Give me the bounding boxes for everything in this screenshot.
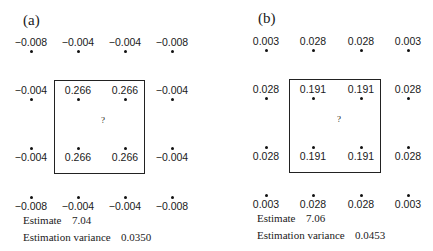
weight-label: 0.003 bbox=[378, 198, 433, 210]
point-dot-icon bbox=[312, 49, 315, 52]
point-dot-icon bbox=[312, 194, 315, 197]
variance-value: 0.0453 bbox=[355, 229, 385, 241]
panel-a: (a) −0.008 −0.004 −0.004 −0.008 −0.004 0… bbox=[0, 0, 216, 251]
point-dot-icon bbox=[77, 196, 80, 199]
point-dot-icon bbox=[30, 196, 33, 199]
point-dot-icon bbox=[407, 194, 410, 197]
weight-label: 0.003 bbox=[378, 35, 433, 47]
point-dot-icon bbox=[265, 49, 268, 52]
point-dot-icon bbox=[360, 194, 363, 197]
point-dot-icon bbox=[171, 98, 174, 101]
point-dot-icon bbox=[407, 146, 410, 149]
estimate-value: 7.04 bbox=[72, 214, 91, 226]
weight-label: −0.008 bbox=[142, 36, 202, 48]
variance-value: 0.0350 bbox=[121, 231, 151, 243]
point-dot-icon bbox=[171, 196, 174, 199]
weight-label: 0.028 bbox=[378, 83, 433, 95]
variance-label: Estimation variance bbox=[257, 227, 355, 244]
point-dot-icon bbox=[407, 97, 410, 100]
weight-label: −0.004 bbox=[142, 84, 202, 96]
estimation-block bbox=[54, 80, 145, 174]
variance-label: Estimation variance bbox=[23, 229, 121, 246]
point-dot-icon bbox=[407, 49, 410, 52]
point-dot-icon bbox=[124, 50, 127, 53]
point-dot-icon bbox=[30, 98, 33, 101]
weight-label: −0.004 bbox=[142, 151, 202, 163]
panel-label: (b) bbox=[258, 10, 276, 27]
point-dot-icon bbox=[171, 50, 174, 53]
estimate-value: 7.06 bbox=[306, 212, 325, 224]
point-dot-icon bbox=[171, 147, 174, 150]
point-dot-icon bbox=[265, 194, 268, 197]
point-dot-icon bbox=[360, 49, 363, 52]
estimation-stats: Estimate7.04 Estimation variance0.0350 bbox=[23, 212, 151, 246]
panel-b: (b) 0.003 0.028 0.028 0.003 0.028 0.191 … bbox=[235, 0, 433, 251]
point-dot-icon bbox=[30, 50, 33, 53]
target-point-marker: ? bbox=[337, 114, 341, 124]
estimate-label: Estimate bbox=[23, 212, 72, 229]
point-dot-icon bbox=[265, 146, 268, 149]
point-dot-icon bbox=[30, 147, 33, 150]
point-dot-icon bbox=[124, 196, 127, 199]
point-dot-icon bbox=[77, 50, 80, 53]
estimate-label: Estimate bbox=[257, 210, 306, 227]
target-point-marker: ? bbox=[101, 115, 105, 125]
panel-label: (a) bbox=[23, 12, 40, 29]
estimation-stats: Estimate7.06 Estimation variance0.0453 bbox=[257, 210, 385, 244]
weight-label: −0.008 bbox=[142, 200, 202, 212]
estimation-block bbox=[289, 79, 381, 173]
weight-label: 0.028 bbox=[378, 150, 433, 162]
point-dot-icon bbox=[265, 97, 268, 100]
